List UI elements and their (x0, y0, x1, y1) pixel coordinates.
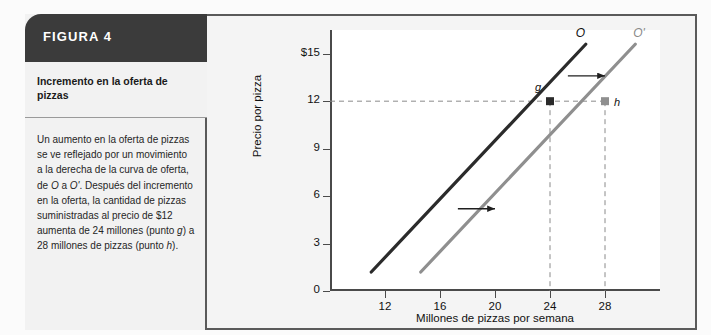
figure-header-bar: FIGURA 4 (25, 14, 207, 62)
supply-curve-original (371, 44, 586, 272)
curve-label-original: O (576, 26, 585, 40)
plot-graphics (209, 16, 695, 328)
supply-curve-shifted (421, 44, 636, 272)
figure-caption: Un aumento en la oferta de pizzas se ve … (37, 132, 195, 254)
data-point-h (601, 97, 609, 105)
point-label-h: h (614, 96, 620, 108)
figure-number-label: FIGURA 4 (43, 29, 112, 44)
figure-root: FIGURA 4 Incremento en la oferta de pizz… (0, 0, 711, 335)
curve-label-shifted: O' (633, 26, 645, 40)
data-point-g (546, 97, 554, 105)
figure-subtitle-box: Incremento en la oferta de pizzas (25, 62, 207, 118)
figure-side-panel: FIGURA 4 Incremento en la oferta de pizz… (25, 14, 207, 330)
point-label-g: g (535, 81, 541, 93)
chart-region: Precio por pizza Millones de pizzas por … (209, 16, 695, 328)
figure-subtitle: Incremento en la oferta de pizzas (37, 74, 197, 103)
